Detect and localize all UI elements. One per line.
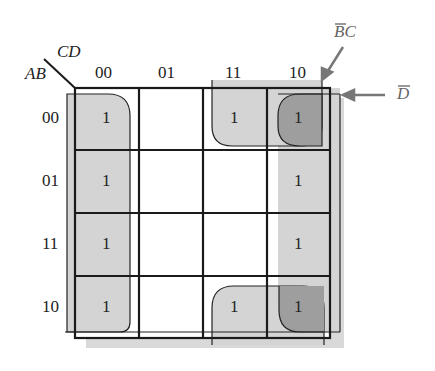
cell: 1 [102,234,111,254]
header-diagonal [44,59,75,88]
row-header: 01 [42,171,59,191]
d-bar-label: D [397,84,409,104]
cell: 1 [294,234,303,254]
cell: 1 [102,171,111,191]
col-header: 00 [95,63,112,83]
row-header: 00 [42,108,59,128]
cell: 1 [102,297,111,317]
cell: 1 [294,171,303,191]
cell: 1 [294,108,303,128]
row-header: 10 [42,297,59,317]
col-header: 01 [158,63,175,83]
row-var-label: AB [25,64,46,84]
col-var-label: CD [57,42,81,62]
cell: 1 [294,297,303,317]
row-header: 11 [42,234,58,254]
col-header: 10 [289,63,306,83]
bc-bar-label: BC [334,22,356,42]
col-header: 11 [225,63,241,83]
cell: 1 [230,108,239,128]
cell: 1 [230,297,239,317]
cell: 1 [102,108,111,128]
